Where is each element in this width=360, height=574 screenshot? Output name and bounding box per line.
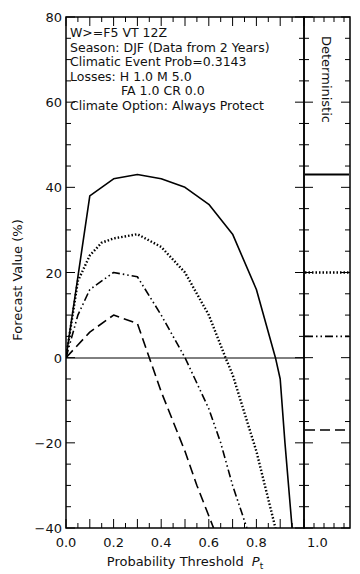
x-tick-label: 0.6 xyxy=(198,535,219,550)
info-annotations: W>=F5 VT 12ZSeason: DJF (Data from 2 Yea… xyxy=(70,25,270,113)
x-tick-label: 0.4 xyxy=(151,535,172,550)
side-panel-x-tick: 1.0 xyxy=(307,535,328,550)
x-axis-title-symbol: P xyxy=(252,554,260,569)
deterministic-values xyxy=(305,175,349,430)
x-axis-title: Probability Threshold Pt xyxy=(107,554,264,571)
x-tick-label: 0.8 xyxy=(246,535,267,550)
info-line: Climatic Event Prob=0.3143 xyxy=(70,54,247,69)
data-series xyxy=(66,175,292,528)
y-tick-label: −40 xyxy=(35,521,62,536)
axis-ticks xyxy=(66,17,350,528)
y-tick-label: 60 xyxy=(45,95,62,110)
series-dotted xyxy=(66,234,275,528)
info-line: Climate Option: Always Protect xyxy=(70,98,264,113)
info-line: Losses: H 1.0 M 5.0 xyxy=(70,69,192,84)
y-tick-label: −20 xyxy=(35,436,62,451)
y-tick-labels: −40−20020406080 xyxy=(35,10,62,536)
x-tick-labels: 0.00.20.40.60.8 xyxy=(56,535,267,550)
info-line: Season: DJF (Data from 2 Years) xyxy=(70,40,270,55)
x-tick-label: 0.0 xyxy=(56,535,77,550)
series-dashed xyxy=(66,315,214,528)
y-tick-label: 80 xyxy=(45,10,62,25)
y-tick-label: 0 xyxy=(54,351,62,366)
series-dash-dot-dot xyxy=(66,273,247,529)
deterministic-label: Deterministic xyxy=(319,36,334,123)
x-axis-title-main: Probability Threshold xyxy=(107,554,244,569)
series-solid xyxy=(66,175,292,528)
x-tick-label: 0.2 xyxy=(103,535,124,550)
y-tick-label: 20 xyxy=(45,266,62,281)
forecast-value-chart: −40−20020406080 0.00.20.40.60.8 W>=F5 VT… xyxy=(0,0,360,574)
info-line: FA 1.0 CR 0.0 xyxy=(121,83,205,98)
y-axis-title: Forecast Value (%) xyxy=(10,219,25,340)
info-line: W>=F5 VT 12Z xyxy=(70,25,167,40)
x-axis-title-subscript: t xyxy=(260,561,264,571)
y-tick-label: 40 xyxy=(45,180,62,195)
